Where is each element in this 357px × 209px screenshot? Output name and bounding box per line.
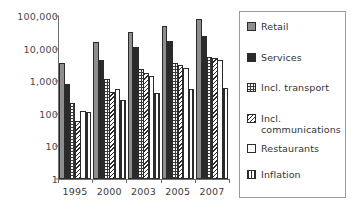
bar-restaurants-2005 xyxy=(183,68,189,179)
legend-item-restaurants[interactable]: Restaurants xyxy=(247,143,341,154)
bar-inflation-2003 xyxy=(154,93,160,179)
bar-group-2007 xyxy=(196,16,228,179)
legend-label: Inflation xyxy=(261,169,301,180)
bar-incl-communications-2005 xyxy=(178,65,184,179)
x-axis-tick-mark xyxy=(229,179,230,183)
legend-label: Incl. communications xyxy=(261,113,341,135)
bar-group-2003 xyxy=(128,16,160,179)
legend-item-retail[interactable]: Retail xyxy=(247,21,341,32)
bar-inflation-2005 xyxy=(188,89,194,179)
bar-retail-2003 xyxy=(128,32,134,179)
bar-group-2005 xyxy=(162,16,194,179)
bar-incl-communications-2007 xyxy=(212,58,218,179)
bar-inflation-1995 xyxy=(86,112,92,179)
bar-incl-transport-2000 xyxy=(104,79,110,179)
x-axis-tick-mark xyxy=(58,179,59,183)
legend-label: Retail xyxy=(261,21,288,32)
legend-swatch-dark-dotted-icon xyxy=(247,83,256,92)
x-axis-tick-mark xyxy=(92,179,93,183)
bar-incl-transport-2005 xyxy=(172,63,178,179)
legend-swatch-white-empty-icon xyxy=(247,144,256,153)
bar-retail-2000 xyxy=(93,42,99,179)
bar-services-2000 xyxy=(99,60,105,179)
bar-incl-communications-2000 xyxy=(109,92,115,179)
x-axis-tick-label-2007: 2007 xyxy=(199,186,224,197)
bar-incl-transport-1995 xyxy=(70,103,76,179)
legend-item-services[interactable]: Services xyxy=(247,52,341,63)
bar-services-2003 xyxy=(133,47,139,179)
bar-inflation-2007 xyxy=(223,88,229,179)
chart-legend: RetailServicesIncl. transportIncl. commu… xyxy=(239,11,346,198)
x-axis-tick-label-2003: 2003 xyxy=(131,186,156,197)
bar-retail-1995 xyxy=(59,63,65,179)
x-axis-tick-label-2000: 2000 xyxy=(97,186,122,197)
legend-swatch-solid-gray-icon xyxy=(247,22,256,31)
x-axis-tick-label-2005: 2005 xyxy=(165,186,190,197)
legend-swatch-diagonal-hatch-icon xyxy=(247,114,256,123)
x-axis-tick-mark xyxy=(195,179,196,183)
bar-restaurants-2003 xyxy=(149,76,155,179)
legend-label: Services xyxy=(261,52,302,63)
legend-swatch-horizontal-lines-icon xyxy=(247,170,256,179)
bar-incl-communications-2003 xyxy=(143,73,149,179)
x-axis-tick-mark xyxy=(126,179,127,183)
bar-inflation-2000 xyxy=(120,100,126,179)
bar-services-2007 xyxy=(201,36,207,179)
bar-incl-transport-2003 xyxy=(138,69,144,179)
legend-item-incl-transport[interactable]: Incl. transport xyxy=(247,82,341,93)
legend-label: Incl. transport xyxy=(261,82,329,93)
legend-item-inflation[interactable]: Inflation xyxy=(247,169,341,180)
bar-incl-communications-1995 xyxy=(75,121,81,179)
y-axis-tick-label: 1,000 xyxy=(0,76,63,87)
bar-group-1995 xyxy=(59,16,91,179)
x-axis-tick-label-1995: 1995 xyxy=(63,186,88,197)
bar-group-2000 xyxy=(93,16,125,179)
y-axis-tick-label: 1 xyxy=(0,174,63,185)
y-axis-tick-label: 10 xyxy=(0,141,63,152)
y-axis-tick-label: 100 xyxy=(0,108,63,119)
bar-restaurants-1995 xyxy=(80,111,86,179)
y-axis-tick-label: 100,000 xyxy=(0,11,63,22)
bar-restaurants-2000 xyxy=(115,89,121,179)
bar-retail-2007 xyxy=(196,19,202,179)
legend-swatch-solid-black-icon xyxy=(247,53,256,62)
legend-item-incl-communications[interactable]: Incl. communications xyxy=(247,113,341,135)
bar-retail-2005 xyxy=(162,26,168,179)
x-axis-tick-mark xyxy=(161,179,162,183)
y-axis-tick-label: 10,000 xyxy=(0,43,63,54)
bar-restaurants-2007 xyxy=(217,60,223,179)
bar-services-2005 xyxy=(167,41,173,179)
bar-incl-transport-2007 xyxy=(207,57,213,179)
bar-services-1995 xyxy=(64,84,70,179)
chart-figure: 100,00010,0001,000100101 199520002003200… xyxy=(0,0,357,209)
x-axis-line xyxy=(58,179,230,180)
legend-label: Restaurants xyxy=(261,143,319,154)
plot-area xyxy=(58,16,229,179)
